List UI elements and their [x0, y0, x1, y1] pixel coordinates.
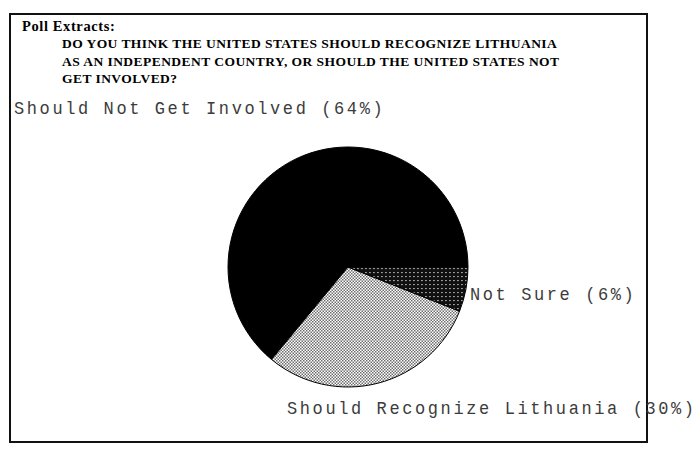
- poll-question-line-2: AS AN INDEPENDENT COUNTRY, OR SHOULD THE…: [62, 53, 622, 71]
- poll-question-line-3: GET INVOLVED?: [62, 70, 622, 88]
- slice-label-not-sure: Not Sure (6%): [470, 285, 636, 305]
- header-block: Poll Extracts: DO YOU THINK THE UNITED S…: [22, 18, 622, 88]
- poll-question-line-1: DO YOU THINK THE UNITED STATES SHOULD RE…: [62, 35, 622, 53]
- slice-label-should-not-get-involved: Should Not Get Involved (64%): [14, 99, 385, 119]
- slice-label-should-recognize-lithuania: Should Recognize Lithuania (30%): [287, 399, 696, 419]
- poll-extracts-title: Poll Extracts:: [22, 18, 622, 35]
